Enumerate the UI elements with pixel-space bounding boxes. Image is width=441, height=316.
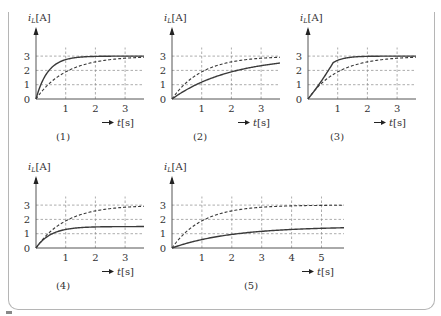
y-tick-label: 0	[160, 243, 166, 254]
y-tick-label: 3	[24, 200, 30, 211]
response-curve	[172, 228, 344, 248]
y-tick-label: 2	[160, 65, 166, 76]
x-axis-arrow-head-icon	[309, 269, 314, 274]
response-curve	[172, 63, 280, 99]
x-tick-label: 3	[394, 103, 400, 114]
x-tick-label: 3	[122, 252, 128, 263]
chart-caption: (5)	[244, 280, 258, 291]
y-tick-label: 3	[160, 51, 166, 62]
response-curve	[36, 227, 144, 248]
x-axis-arrow-head-icon	[245, 120, 250, 125]
x-tick-label: 2	[229, 252, 235, 263]
y-axis-arrow-icon	[306, 27, 311, 35]
y-axis-label: iL[A]	[164, 161, 187, 174]
y-axis-arrow-icon	[34, 176, 39, 184]
chart-caption: (4)	[56, 280, 70, 291]
chart-2: 0123123iL[A]t[s](2)	[160, 12, 280, 142]
x-axis-label: t[s]	[317, 266, 334, 277]
x-axis-label: t[s]	[253, 117, 270, 128]
y-tick-label: 1	[160, 228, 166, 239]
chart-panel: 0123123iL[A]t[s](1)0123123iL[A]t[s](2)01…	[0, 0, 441, 316]
x-tick-label: 2	[92, 103, 98, 114]
x-tick-label: 3	[259, 252, 265, 263]
reference-curve	[172, 205, 344, 248]
x-axis-arrow-head-icon	[109, 120, 114, 125]
chart-caption: (3)	[330, 131, 344, 142]
x-tick-label: 1	[63, 252, 69, 263]
x-tick-label: 1	[199, 103, 205, 114]
reference-curve	[36, 57, 144, 99]
chart-4: 0123123iL[A]t[s](4)	[24, 161, 144, 291]
x-axis-label: t[s]	[117, 117, 134, 128]
x-tick-label: 3	[258, 103, 264, 114]
x-tick-label: 1	[335, 103, 341, 114]
y-tick-label: 2	[24, 65, 30, 76]
y-tick-label: 2	[296, 65, 302, 76]
y-tick-label: 2	[160, 214, 166, 225]
y-axis-label: iL[A]	[300, 12, 323, 25]
y-axis-label: iL[A]	[28, 161, 51, 174]
y-tick-label: 3	[24, 51, 30, 62]
y-tick-label: 1	[24, 228, 30, 239]
y-tick-label: 2	[24, 214, 30, 225]
chart-caption: (2)	[193, 131, 207, 142]
y-tick-label: 0	[296, 94, 302, 105]
x-axis-label: t[s]	[389, 117, 406, 128]
y-axis-arrow-icon	[170, 27, 175, 35]
x-tick-label: 1	[199, 252, 205, 263]
x-tick-label: 1	[63, 103, 69, 114]
y-axis-arrow-icon	[34, 27, 39, 35]
y-tick-label: 1	[24, 79, 30, 90]
x-tick-label: 2	[92, 252, 98, 263]
reference-curve	[172, 57, 280, 99]
chart-caption: (1)	[56, 131, 70, 142]
y-axis-label: iL[A]	[164, 12, 187, 25]
y-tick-label: 1	[296, 79, 302, 90]
x-axis-arrow-head-icon	[109, 269, 114, 274]
x-tick-label: 3	[122, 103, 128, 114]
chart-1: 0123123iL[A]t[s](1)	[24, 12, 144, 142]
x-axis-arrow-head-icon	[381, 120, 386, 125]
y-tick-label: 1	[160, 79, 166, 90]
y-tick-label: 3	[296, 51, 302, 62]
y-tick-label: 3	[160, 200, 166, 211]
chart-3: 0123123iL[A]t[s](3)	[296, 12, 416, 142]
x-tick-label: 2	[228, 103, 234, 114]
y-axis-arrow-icon	[170, 176, 175, 184]
x-axis-label: t[s]	[117, 266, 134, 277]
y-tick-label: 0	[160, 94, 166, 105]
y-tick-label: 0	[24, 94, 30, 105]
x-tick-label: 5	[318, 252, 324, 263]
x-tick-label: 4	[288, 252, 294, 263]
y-tick-label: 0	[24, 243, 30, 254]
y-axis-label: iL[A]	[28, 12, 51, 25]
x-tick-label: 2	[364, 103, 370, 114]
chart-5: 012312345iL[A]t[s](5)	[160, 161, 344, 291]
